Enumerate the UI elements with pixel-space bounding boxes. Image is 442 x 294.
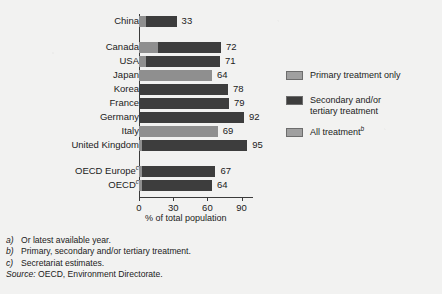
x-axis-tick [173, 197, 174, 201]
bar-value-label: 92 [249, 111, 260, 122]
bar-row-label: Canada [0, 41, 139, 52]
bar-row-label: OECD Europec [0, 165, 139, 176]
bar-segment-light [139, 16, 146, 27]
legend-swatch [286, 71, 303, 80]
bar [139, 84, 228, 95]
bar-segment-dark [142, 140, 247, 151]
bar-segment-dark [139, 98, 229, 109]
bar-value-label: 69 [223, 125, 234, 136]
bar [139, 70, 212, 81]
bar-segment-dark [139, 84, 228, 95]
chart-page: China33Canada72USA71Japan64Korea78France… [0, 0, 442, 294]
x-axis-tick-label: 90 [236, 202, 247, 213]
legend-item: All treatmentb [286, 127, 436, 141]
bar-row-label: Japan [0, 69, 139, 80]
footnote-marker: a) [6, 235, 21, 246]
bar-segment-light [139, 42, 158, 53]
footnote-text: Or latest available year. [21, 235, 111, 245]
bar-value-label: 79 [234, 97, 245, 108]
chart-legend: Primary treatment onlySecondary and/orte… [286, 70, 436, 152]
source-text: OECD, Environment Directorate. [36, 269, 163, 279]
x-axis-title: % of total population [145, 213, 227, 223]
legend-label: Primary treatment only [310, 70, 436, 81]
x-axis-tick-label: 60 [202, 202, 213, 213]
footnotes: a)Or latest available year.b)Primary, se… [6, 235, 306, 281]
bar-row-label: Italy [0, 125, 139, 136]
bar-segment-alltr [139, 126, 218, 137]
bar [139, 16, 177, 27]
legend-swatch [286, 128, 303, 137]
bar-segment-dark [146, 56, 220, 67]
bar-segment-dark [146, 16, 177, 27]
footnote-line: a)Or latest available year. [6, 235, 306, 246]
bar [139, 166, 215, 177]
bar-segment-alltr [139, 70, 212, 81]
bar [139, 126, 218, 137]
footnote-marker: c) [6, 258, 21, 269]
footnote-line: c)Secretariat estimates. [6, 258, 306, 269]
bar-value-label: 64 [217, 69, 228, 80]
footnote-marker: b [361, 125, 365, 132]
x-axis-tick [242, 197, 243, 201]
bar-segment-dark [139, 112, 244, 123]
legend-label: All treatmentb [310, 127, 436, 138]
bar-segment-dark [158, 42, 221, 53]
bar-segment-light [139, 56, 146, 67]
bar-row-label: Korea [0, 83, 139, 94]
legend-swatch [286, 96, 303, 105]
bar [139, 180, 212, 191]
x-axis-tick [139, 197, 140, 201]
bar [139, 98, 229, 109]
bar-row-label: USA [0, 55, 139, 66]
bar-row-label: Germany [0, 111, 139, 122]
footnote-line: b)Primary, secondary and/or tertiary tre… [6, 246, 306, 257]
x-axis-tick-label: 30 [168, 202, 179, 213]
bar-value-label: 78 [233, 83, 244, 94]
bar-row-label: OECDc [0, 179, 139, 190]
x-axis-tick-label: 0 [136, 202, 141, 213]
bar-row-label: China [0, 15, 139, 26]
bar-row: OECDc64 [0, 180, 442, 191]
x-axis-line [139, 197, 253, 198]
source-line: Source: OECD, Environment Directorate. [6, 269, 306, 280]
legend-item: Primary treatment only [286, 70, 436, 84]
bar [139, 112, 244, 123]
bar-row: China33 [0, 16, 442, 27]
bar [139, 42, 221, 53]
bar-value-label: 71 [225, 55, 236, 66]
bar-value-label: 72 [226, 41, 237, 52]
x-axis-tick [207, 197, 208, 201]
footnote-text: Primary, secondary and/or tertiary treat… [21, 246, 191, 256]
bar-value-label: 33 [182, 15, 193, 26]
bar [139, 56, 220, 67]
bar-value-label: 64 [217, 179, 228, 190]
footnote-text: Secretariat estimates. [21, 258, 104, 268]
bar-segment-dark [142, 166, 215, 177]
legend-item: Secondary and/ortertiary treatment [286, 95, 436, 116]
bar-row-label: France [0, 97, 139, 108]
footnote-marker: b) [6, 246, 21, 257]
bar-row-label: United Kingdom [0, 139, 139, 150]
bar-segment-dark [142, 180, 212, 191]
bar-value-label: 67 [220, 165, 231, 176]
legend-label: Secondary and/ortertiary treatment [310, 95, 436, 116]
bar-row: USA71 [0, 56, 442, 67]
bar [139, 140, 247, 151]
bar-row: OECD Europec67 [0, 166, 442, 177]
source-label: Source: [6, 269, 36, 279]
bar-value-label: 95 [252, 139, 263, 150]
bar-row: Canada72 [0, 42, 442, 53]
